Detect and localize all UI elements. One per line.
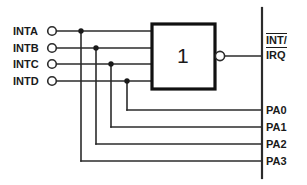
port-label-pa1: PA1 (266, 121, 287, 133)
junction-dot-intc (108, 61, 113, 66)
input-label-intd: INTD (13, 75, 39, 87)
input-label-inta: INTA (13, 25, 38, 37)
terminal-circle-intb (48, 44, 57, 53)
inverting-bubble-icon (215, 51, 224, 60)
terminal-circle-inta (48, 27, 57, 36)
output-label-denominator: IRQ (266, 50, 286, 62)
gate-symbol-label: 1 (177, 44, 189, 68)
junction-dot-intb (93, 45, 98, 50)
schematic-svg (0, 0, 307, 185)
output-label-numerator: INT/ (266, 33, 287, 48)
circuit-diagram-canvas: INTA INTB INTC INTD 1 INT/ IRQ PA0 PA1 P… (0, 0, 307, 185)
junction-dot-inta (78, 28, 83, 33)
input-label-intb: INTB (13, 42, 39, 54)
input-label-intc: INTC (13, 58, 39, 70)
terminal-circle-intc (48, 60, 57, 69)
port-label-pa3: PA3 (266, 155, 287, 167)
port-label-pa0: PA0 (266, 104, 287, 116)
port-label-pa2: PA2 (266, 138, 287, 150)
terminal-circle-intd (48, 77, 57, 86)
junction-dot-intd (124, 78, 129, 83)
output-label-int-irq: INT/ IRQ (266, 33, 287, 62)
